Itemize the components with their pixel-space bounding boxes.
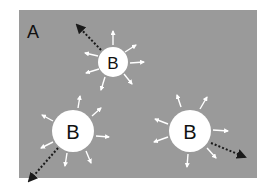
diagram: A B B [0,0,264,190]
particle-label: B [107,54,118,73]
particle-label: B [66,121,79,143]
particle-label: B [183,121,196,143]
region-a-label: A [27,22,39,42]
